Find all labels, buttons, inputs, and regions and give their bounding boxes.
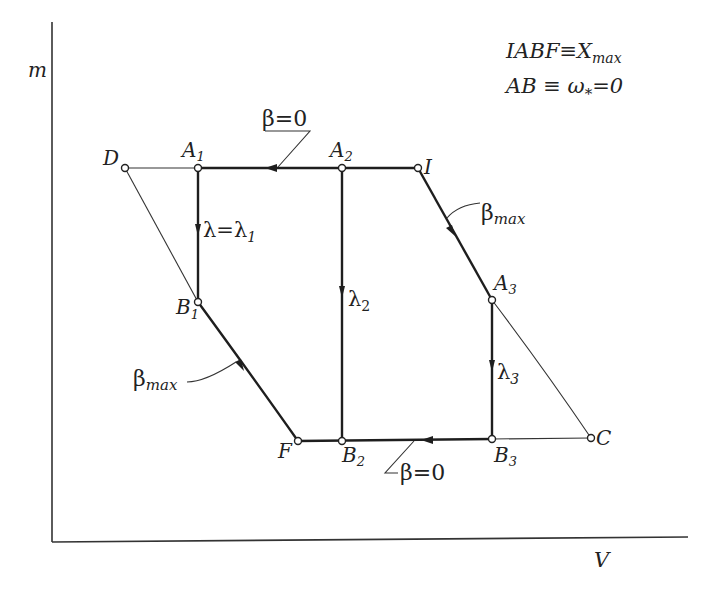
point-B3-label: B3	[493, 443, 517, 469]
leader-beta-max-right	[447, 203, 480, 218]
trajectory-F-B3	[298, 439, 492, 441]
x-axis-label: V	[594, 548, 611, 572]
beta-zero-top-label: β=0	[262, 106, 307, 131]
lambda3-label: λ3	[497, 360, 519, 387]
point-A3-label: A3	[492, 271, 517, 297]
point-A1-label: A1	[180, 138, 205, 164]
legend: IABF≡Xmax AB ≡ ω*=0	[504, 39, 623, 103]
leader-beta-zero-top	[265, 131, 310, 167]
boundary-B3-C	[492, 438, 591, 439]
point-A2-label: A2	[328, 138, 353, 164]
x-axis	[52, 537, 688, 542]
point-C-marker	[588, 435, 595, 442]
leader-beta-max-left	[187, 362, 236, 382]
trajectory-I-A3	[418, 168, 492, 300]
arrow-left-bottom-icon	[421, 436, 433, 444]
lambda1-label: λ=λ1	[203, 218, 256, 245]
beta-max-left-label: βmax	[133, 366, 178, 394]
boundary-D-B1	[125, 168, 198, 302]
arrow-left-top-icon	[265, 164, 277, 172]
lambda2-label: λ2	[348, 287, 370, 314]
point-D-marker	[122, 165, 129, 172]
beta-max-right-label: βmax	[481, 200, 526, 228]
point-A1-marker	[195, 165, 202, 172]
phase-diagram: m V IABF≡Xmax AB ≡ ω*=0 β=0 β=0 βmax βma…	[0, 0, 709, 592]
point-C-label: C	[596, 426, 611, 450]
point-I-marker	[415, 165, 422, 172]
legend-line-1: IABF≡Xmax	[505, 39, 622, 66]
point-B2-marker	[339, 438, 346, 445]
point-B2-label: B2	[341, 443, 365, 469]
point-A3-marker	[489, 297, 496, 304]
arrow-down-lambda3-icon	[489, 360, 495, 372]
point-D-label: D	[102, 146, 119, 170]
arrow-down-lambda2-icon	[339, 286, 345, 298]
y-axis-label: m	[28, 58, 47, 82]
point-B1-marker	[195, 299, 202, 306]
point-F-marker	[295, 438, 302, 445]
arrow-down-lambda1-icon	[195, 224, 201, 236]
point-I-label: I	[423, 155, 433, 179]
trajectory-B1-F	[198, 302, 298, 441]
point-F-label: F	[277, 439, 293, 463]
beta-zero-bottom-label: β=0	[400, 460, 445, 485]
legend-line-2: AB ≡ ω*=0	[504, 74, 623, 103]
point-A2-marker	[339, 165, 346, 172]
point-B3-marker	[489, 436, 496, 443]
